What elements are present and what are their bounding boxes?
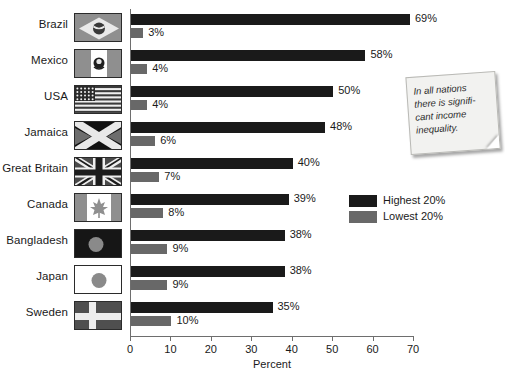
sticky-note-curl-icon [486, 135, 500, 149]
x-axis-line [130, 336, 414, 337]
bar-value-lowest: 4% [152, 98, 168, 110]
x-tick-label: 50 [326, 343, 338, 355]
flag-usa-icon [74, 85, 122, 114]
y-axis-line [130, 9, 131, 336]
bar-highest-20 [131, 86, 333, 97]
country-label: Canada [0, 198, 68, 210]
chart-row: Great Britain40%7% [0, 154, 505, 190]
x-tick-mark [292, 336, 293, 341]
flag-jamaica-icon [74, 121, 122, 150]
x-tick-label: 40 [286, 343, 298, 355]
bar-highest-20 [131, 158, 293, 169]
bar-highest-20 [131, 266, 285, 277]
bar-highest-20 [131, 194, 289, 205]
x-tick-label: 30 [245, 343, 257, 355]
x-tick-mark [211, 336, 212, 341]
country-label: Bangladesh [0, 234, 68, 246]
x-axis-title: Percent [130, 358, 414, 370]
bar-value-highest: 38% [290, 228, 312, 240]
bar-value-highest: 38% [290, 264, 312, 276]
x-tick-mark [332, 336, 333, 341]
country-label: Mexico [0, 54, 68, 66]
chart-row: Bangladesh38%9% [0, 226, 505, 262]
bar-highest-20 [131, 14, 410, 25]
sticky-note: In all nations there is signifi-cant inc… [405, 71, 500, 155]
bar-value-highest: 69% [415, 12, 437, 24]
chart-container: Brazil69%3%Mexico58%4%USA50%4%Jamaica48%… [0, 0, 505, 374]
legend-label-lowest: Lowest 20% [383, 210, 443, 222]
bar-lowest-20 [131, 100, 147, 110]
bar-lowest-20 [131, 64, 147, 74]
x-tick-mark [170, 336, 171, 341]
chart-row: Sweden35%10% [0, 298, 505, 334]
country-label: Great Britain [0, 162, 68, 174]
country-label: Jamaica [0, 126, 68, 138]
bar-value-lowest: 9% [172, 242, 188, 254]
flag-canada-icon [74, 193, 122, 222]
bar-lowest-20 [131, 28, 143, 38]
sticky-note-text: In all nations there is signifi-cant inc… [413, 79, 492, 136]
country-label: USA [0, 90, 68, 102]
bar-lowest-20 [131, 136, 155, 146]
bar-highest-20 [131, 50, 365, 61]
bar-value-lowest: 6% [160, 134, 176, 146]
x-tick-label: 70 [407, 343, 419, 355]
chart-row: Brazil69%3% [0, 10, 505, 46]
bar-value-lowest: 10% [176, 314, 198, 326]
bar-value-highest: 40% [298, 156, 320, 168]
flag-mexico-icon [74, 49, 122, 78]
bar-value-highest: 39% [294, 192, 316, 204]
country-label: Brazil [0, 18, 68, 30]
x-tick-mark [130, 336, 131, 341]
bar-lowest-20 [131, 280, 167, 290]
bar-value-highest: 50% [338, 84, 360, 96]
x-tick-label: 20 [205, 343, 217, 355]
chart-row: Japan38%9% [0, 262, 505, 298]
bar-highest-20 [131, 122, 325, 133]
x-tick-mark [413, 336, 414, 341]
bar-highest-20 [131, 230, 285, 241]
x-tick-label: 60 [366, 343, 378, 355]
x-tick-label: 0 [127, 343, 133, 355]
x-tick-mark [373, 336, 374, 341]
legend-swatch-highest [349, 195, 377, 207]
bar-lowest-20 [131, 208, 163, 218]
bar-value-lowest: 9% [172, 278, 188, 290]
flag-bangladesh-icon [74, 229, 122, 258]
flag-japan-icon [74, 265, 122, 294]
bar-highest-20 [131, 302, 273, 313]
bar-lowest-20 [131, 172, 159, 182]
bar-value-lowest: 4% [152, 62, 168, 74]
legend-label-highest: Highest 20% [383, 194, 445, 206]
flag-brazil-icon [74, 13, 122, 42]
bar-value-highest: 48% [330, 120, 352, 132]
legend-swatch-lowest [349, 211, 377, 223]
bar-value-lowest: 7% [164, 170, 180, 182]
x-tick-label: 10 [164, 343, 176, 355]
bar-value-lowest: 8% [168, 206, 184, 218]
x-tick-mark [251, 336, 252, 341]
bar-value-highest: 35% [278, 300, 300, 312]
country-label: Japan [0, 270, 68, 282]
bar-lowest-20 [131, 244, 167, 254]
flag-sweden-icon [74, 301, 122, 330]
country-label: Sweden [0, 306, 68, 318]
bar-value-lowest: 3% [148, 26, 164, 38]
bar-lowest-20 [131, 316, 171, 326]
flag-great-britain-icon [74, 157, 122, 186]
bar-value-highest: 58% [370, 48, 392, 60]
